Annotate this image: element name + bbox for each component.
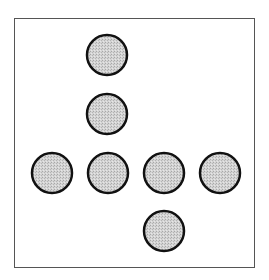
peg-circle-2 (87, 94, 127, 134)
peg-group (32, 35, 240, 251)
peg-circle-5 (144, 153, 184, 193)
peg-circle-3 (32, 153, 72, 193)
peg-board (0, 0, 269, 280)
peg-circle-4 (88, 153, 128, 193)
peg-circle-1 (87, 35, 127, 75)
peg-circle-6 (200, 153, 240, 193)
peg-circle-7 (144, 211, 184, 251)
